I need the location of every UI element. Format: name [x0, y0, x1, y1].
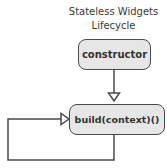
node-build: build(context)()	[69, 104, 165, 135]
node-constructor-label: constructor	[82, 49, 147, 60]
node-constructor: constructor	[78, 39, 151, 70]
arrow-constructor-to-build	[109, 70, 120, 101]
arrowhead-down-icon	[109, 93, 120, 101]
arrowhead-right-icon	[61, 114, 69, 125]
connectors	[0, 0, 167, 168]
node-build-label: build(context)()	[75, 114, 160, 125]
